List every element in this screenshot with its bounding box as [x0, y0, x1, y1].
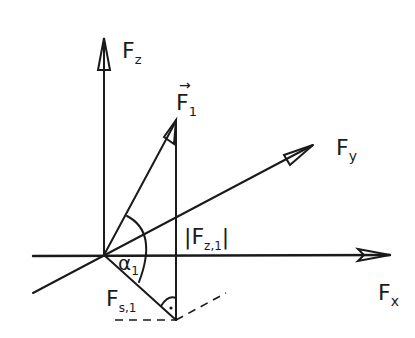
force-diagram: Fz → F1 Fy Fx |Fz,1| Fs,1 α1 [0, 0, 415, 338]
label-fx: Fx [378, 280, 399, 309]
f1-vector [104, 120, 176, 255]
label-fz1: |Fz,1| [184, 224, 229, 253]
right-angle-mark [161, 297, 176, 306]
right-angle-dot [169, 306, 172, 309]
y-axis [33, 145, 313, 293]
z-axis [98, 38, 110, 256]
label-fy: Fy [336, 135, 357, 164]
label-fs1: Fs,1 [106, 286, 136, 315]
label-fz: Fz [122, 38, 142, 67]
label-f1: F1 [176, 90, 197, 119]
dashed-y-projection [176, 293, 226, 320]
